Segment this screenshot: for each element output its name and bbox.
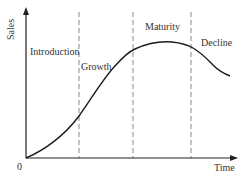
stage-label-decline: Decline xyxy=(201,37,233,48)
stage-label-growth: Growth xyxy=(81,61,112,72)
x-axis-label: Time xyxy=(214,162,235,173)
origin-label: 0 xyxy=(17,161,22,172)
stage-label-introduction: Introduction xyxy=(30,46,79,57)
y-axis-label: Sales xyxy=(5,19,16,40)
stage-label-maturity: Maturity xyxy=(145,21,180,32)
sales-curve xyxy=(26,42,230,158)
product-life-cycle-diagram: Sales Introduction Growth Maturity Decli… xyxy=(0,0,245,178)
